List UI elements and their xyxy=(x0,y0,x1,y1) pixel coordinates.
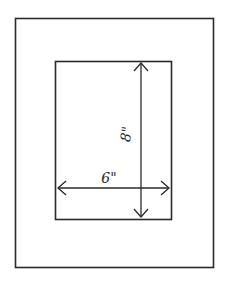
frame-diagram: 8" 6" xyxy=(0,0,227,293)
inner-opening xyxy=(56,62,172,220)
height-label: 8" xyxy=(117,125,135,143)
height-dimension-arrow xyxy=(134,63,148,217)
outer-frame xyxy=(16,19,214,268)
width-label: 6" xyxy=(101,170,116,186)
